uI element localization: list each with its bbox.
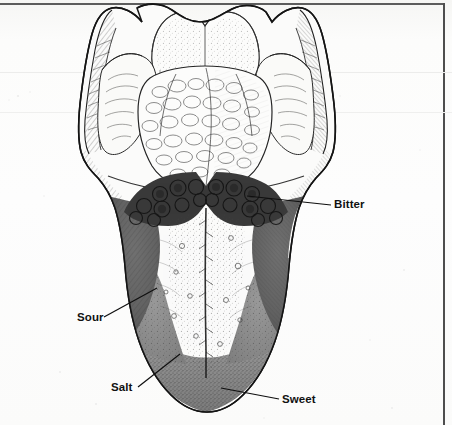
label-sour: Sour: [77, 312, 104, 324]
label-salt: Salt: [111, 382, 133, 394]
taste-zones: [108, 172, 304, 412]
tongue-illustration: [0, 0, 452, 425]
label-sweet: Sweet: [282, 394, 316, 406]
label-bitter: Bitter: [334, 199, 365, 211]
figure-page: Bitter Sour Salt Sweet: [0, 0, 452, 425]
lingual-tonsil-root: [138, 66, 272, 190]
